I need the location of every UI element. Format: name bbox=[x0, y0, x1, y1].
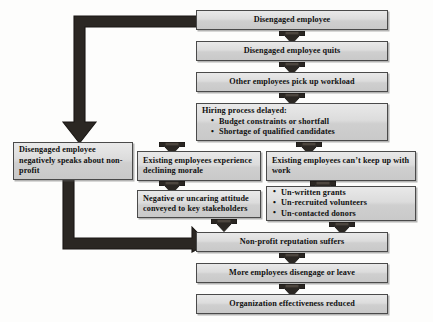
bullet-item: Budget constraints or shortfall bbox=[210, 117, 390, 128]
bullet-item: Un-contacted donors bbox=[272, 209, 410, 220]
node-label: Disengaged employee quits bbox=[244, 46, 341, 57]
node-organization-effectiveness-reduced: Organization effectiveness reduced bbox=[196, 294, 388, 314]
node-hiring-process-delayed: Hiring process delayed: Budget constrain… bbox=[196, 103, 388, 141]
node-other-employees-pick-up-workload: Other employees pick up workload bbox=[196, 72, 388, 92]
node-label: Other employees pick up workload bbox=[229, 77, 354, 88]
node-bullet-list: Un-written grants Un-recruited volunteer… bbox=[272, 188, 410, 220]
flowchart-canvas: Disengaged employee Disengaged employee … bbox=[0, 0, 433, 322]
bullet-item: Un-written grants bbox=[272, 188, 410, 199]
node-more-employees-disengage-or-leave: More employees disengage or leave bbox=[196, 263, 388, 283]
node-bullet-list: Budget constraints or shortfall Shortage… bbox=[202, 117, 390, 138]
bullet-item: Shortage of qualified candidates bbox=[210, 127, 390, 138]
node-existing-employees-cant-keep-up: Existing employees can’t keep up with wo… bbox=[266, 151, 416, 181]
node-label: Negative or uncaring attitude conveyed t… bbox=[143, 194, 255, 215]
node-existing-employees-declining-morale: Existing employees experience declining … bbox=[137, 151, 261, 181]
node-label: More employees disengage or leave bbox=[229, 268, 355, 279]
arrow-attitude-to-reputation bbox=[211, 219, 237, 232]
node-disengaged-employee: Disengaged employee bbox=[196, 10, 388, 30]
bullet-item: Un-recruited volunteers bbox=[272, 198, 410, 209]
node-heading: Hiring process delayed: bbox=[202, 106, 382, 117]
node-disengaged-employee-negatively-speaks: Disengaged employee negatively speaks ab… bbox=[13, 142, 133, 180]
node-label: Non-profit reputation suffers bbox=[240, 237, 344, 248]
node-label: Disengaged employee negatively speaks ab… bbox=[19, 145, 127, 177]
node-disengaged-employee-quits: Disengaged employee quits bbox=[196, 41, 388, 61]
node-label: Existing employees experience declining … bbox=[143, 156, 255, 177]
node-label: Disengaged employee bbox=[254, 15, 331, 26]
node-label: Organization effectiveness reduced bbox=[229, 299, 355, 310]
node-label: Existing employees can’t keep up with wo… bbox=[272, 156, 410, 177]
elbow-employee-to-negatively-speaks bbox=[61, 12, 201, 146]
node-non-profit-reputation-suffers: Non-profit reputation suffers bbox=[196, 232, 388, 252]
node-negative-or-uncaring-attitude: Negative or uncaring attitude conveyed t… bbox=[137, 190, 261, 218]
node-unmet-needs: Un-written grants Un-recruited volunteer… bbox=[266, 186, 416, 221]
